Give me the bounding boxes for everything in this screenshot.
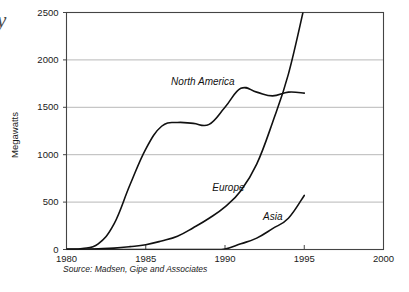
series-label-europe: Europe (212, 182, 244, 193)
y-tick-label: 2000 (25, 54, 59, 65)
x-tick-label: 2000 (364, 253, 404, 264)
y-axis-title: Megawatts (9, 100, 20, 170)
line-chart-plot (0, 0, 409, 292)
chart-figure: y Megawatts 05001000150020002500 1980198… (0, 0, 409, 292)
x-tick-label: 1995 (284, 253, 324, 264)
x-tick-label: 1990 (205, 253, 245, 264)
series-label-asia: Asia (263, 211, 282, 222)
x-tick-label: 1985 (126, 253, 166, 264)
series-label-north-america: North America (171, 76, 235, 87)
clipped-edge-glyph: y (0, 10, 13, 34)
y-tick-label: 500 (25, 196, 59, 207)
axis-frame (67, 13, 384, 250)
y-tick-label: 1500 (25, 101, 59, 112)
source-note: Source: Madsen, Gipe and Associates (63, 264, 207, 274)
y-tick-label: 1000 (25, 149, 59, 160)
y-tick-label: 2500 (25, 7, 59, 18)
x-tick-label: 1980 (47, 253, 87, 264)
